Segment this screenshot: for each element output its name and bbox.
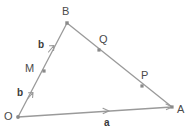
vertex-marker-A (170, 105, 173, 108)
vector-label-b-upper: b (38, 40, 44, 50)
point-label-Q: Q (99, 34, 108, 45)
vector-label-a-base: a (104, 118, 110, 128)
vertex-label-A: A (177, 104, 184, 115)
geometry-diagram: O B A M Q P b b a (0, 0, 195, 128)
vertex-marker-B (65, 21, 68, 24)
edge-BA (67, 23, 172, 107)
point-markers (16, 21, 173, 119)
point-label-P: P (141, 70, 148, 81)
point-marker-Q (97, 48, 100, 51)
point-marker-P (140, 84, 143, 87)
edge-OA (18, 107, 172, 117)
triangle-edges (18, 23, 172, 117)
point-marker-M (42, 69, 45, 72)
point-label-M: M (25, 63, 34, 74)
vertex-label-O: O (4, 111, 13, 122)
vertex-label-B: B (62, 6, 69, 17)
vector-label-b-lower: b (17, 88, 23, 98)
vertex-marker-O (16, 115, 20, 119)
